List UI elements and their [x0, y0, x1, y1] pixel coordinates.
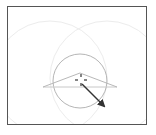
- drawing-canvas[interactable]: [0, 0, 156, 135]
